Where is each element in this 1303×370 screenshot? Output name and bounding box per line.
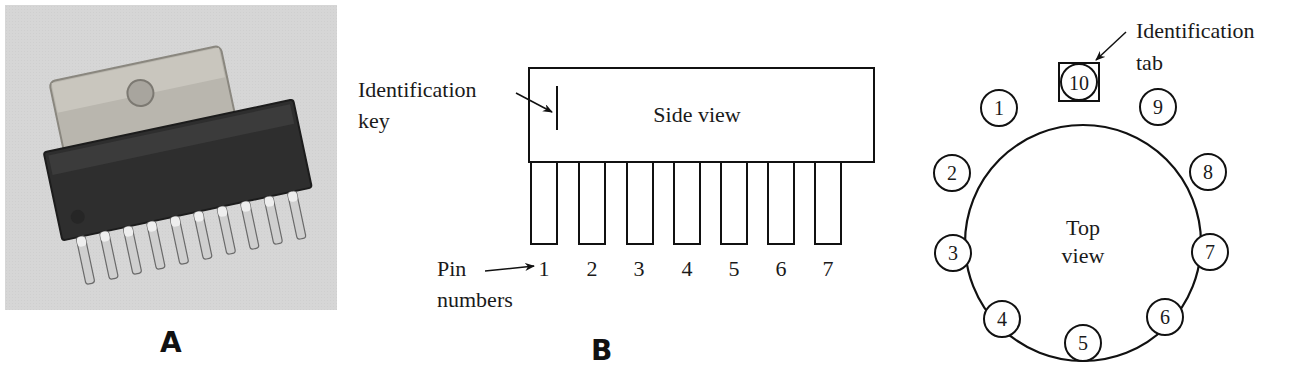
panel-c-top-view: Top view 10 Identification tab 1 2 3 4 5…: [934, 18, 1255, 361]
pin-number-7: 7: [823, 256, 834, 281]
pin-number-3: 3: [634, 256, 645, 281]
pin-number-6: 6: [776, 256, 787, 281]
pin-label-6: 6: [1160, 306, 1170, 328]
pin-label-10: 10: [1069, 72, 1089, 94]
pin-number-1: 1: [539, 256, 550, 281]
side-view-label: Side view: [653, 102, 740, 127]
pin-number-5: 5: [729, 256, 740, 281]
identification-tab-arrow-icon: [1096, 32, 1126, 60]
pin-label-2: 2: [947, 162, 957, 184]
identification-tab-label-line2: tab: [1136, 50, 1163, 75]
pin-label-1: 1: [994, 97, 1004, 119]
pin-label-7: 7: [1205, 241, 1215, 263]
identification-tab-label-line1: Identification: [1136, 18, 1255, 43]
top-view-label-line2: view: [1062, 243, 1105, 268]
panel-b-side-view: Side view Identification key 1 2 3 4 5 6…: [358, 68, 874, 312]
pin-numbers-label-line1: Pin: [437, 256, 466, 281]
panel-b-letter: B: [591, 334, 612, 367]
pin-numbers-arrow-icon: [485, 266, 534, 271]
identification-key-label-line1: Identification: [358, 77, 477, 102]
pin-label-9: 9: [1153, 96, 1163, 118]
pin-numbers-label-line2: numbers: [437, 287, 513, 312]
pin-label-4: 4: [997, 308, 1007, 330]
side-view-pins: [531, 162, 841, 244]
pin-label-5: 5: [1078, 332, 1088, 354]
pin-label-3: 3: [948, 242, 958, 264]
identification-key-arrow-icon: [516, 93, 552, 112]
pin-number-2: 2: [587, 256, 598, 281]
diagram-canvas: Side view Identification key 1 2 3 4 5 6…: [0, 0, 1303, 370]
top-view-label-line1: Top: [1066, 215, 1100, 240]
pin-label-8: 8: [1203, 161, 1213, 183]
identification-key-label-line2: key: [358, 108, 390, 133]
pin-number-4: 4: [682, 256, 693, 281]
